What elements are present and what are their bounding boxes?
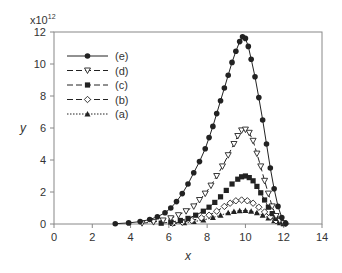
marker-circle (147, 217, 153, 223)
marker-circle (168, 205, 174, 211)
marker-square (229, 181, 234, 186)
marker-circle (260, 117, 266, 123)
marker-diamond (238, 197, 244, 203)
legend-label: (c) (115, 79, 128, 91)
marker-circle (126, 220, 132, 226)
marker-circle (237, 39, 243, 45)
x-tick-label: 2 (89, 231, 95, 243)
marker-triangle-up (225, 210, 231, 216)
marker-circle (206, 135, 212, 141)
marker-circle (197, 159, 203, 165)
legend-label: (e) (115, 50, 128, 62)
marker-triangle-down (262, 178, 268, 184)
marker-circle (233, 48, 239, 54)
legend-item: (e) (67, 50, 128, 62)
legend-item: (b) (67, 94, 128, 106)
x-tick-label: 6 (166, 231, 172, 243)
x-tick-label: 14 (316, 231, 328, 243)
y-multiplier-label: x1012 (30, 13, 56, 26)
marker-square (218, 194, 223, 199)
marker-triangle-down (196, 198, 202, 204)
marker-triangle-down (202, 191, 208, 197)
x-tick-label: 4 (128, 231, 134, 243)
legend-label: (d) (115, 65, 128, 77)
marker-triangle-down (254, 151, 260, 157)
marker-triangle-down (191, 204, 197, 210)
marker-triangle-down (265, 191, 271, 197)
marker-circle (202, 146, 208, 152)
marker-diamond (206, 212, 212, 218)
marker-circle (185, 181, 191, 187)
marker-diamond (221, 203, 227, 209)
x-axis-label: x (184, 249, 192, 263)
y-tick-label: 2 (40, 186, 46, 198)
marker-triangle-down (208, 183, 214, 189)
marker-triangle-down (214, 174, 220, 180)
marker-diamond (214, 208, 220, 214)
marker-circle (214, 111, 220, 117)
plot-border (54, 32, 322, 224)
marker-circle (279, 215, 285, 221)
marker-circle (174, 199, 180, 205)
x-tick-label: 12 (278, 231, 290, 243)
x-tick-label: 0 (51, 231, 57, 243)
marker-square (258, 190, 263, 195)
marker-circle (191, 170, 197, 176)
marker-circle (225, 72, 231, 78)
marker-circle (271, 186, 277, 192)
marker-circle (264, 141, 270, 147)
x-tick-label: 8 (204, 231, 210, 243)
marker-square (185, 216, 190, 221)
series-line (142, 130, 284, 224)
marker-circle (252, 74, 258, 80)
marker-triangle-down (246, 130, 252, 136)
marker-circle (179, 191, 185, 197)
marker-triangle-up (248, 208, 254, 214)
marker-circle (268, 165, 274, 171)
data-series (112, 34, 288, 227)
marker-triangle-up (231, 209, 237, 215)
marker-circle (218, 98, 224, 104)
marker-diamond (84, 96, 90, 102)
legend-item: (c) (67, 79, 128, 91)
marker-square (201, 209, 206, 214)
marker-square (250, 178, 255, 183)
marker-square (193, 213, 198, 218)
marker-circle (283, 220, 289, 226)
legend: (e)(d)(c)(b)(a) (67, 50, 128, 120)
y-tick-label: 4 (40, 154, 46, 166)
marker-square (224, 188, 229, 193)
marker-triangle-down (235, 134, 241, 140)
marker-circle (210, 124, 216, 130)
marker-circle (229, 60, 235, 66)
marker-circle (85, 53, 91, 59)
marker-triangle-up (237, 208, 243, 214)
marker-triangle-down (258, 164, 264, 170)
legend-label: (b) (115, 94, 128, 106)
marker-triangle-down (225, 153, 231, 159)
marker-square (85, 82, 90, 87)
marker-triangle-down (250, 138, 256, 144)
marker-triangle-down (183, 209, 189, 215)
series-line (115, 37, 285, 224)
axis-ticks: 02468101214024681012 (34, 26, 328, 243)
marker-circle (256, 95, 262, 101)
marker-circle (275, 204, 281, 210)
marker-circle (162, 210, 168, 216)
y-tick-label: 6 (40, 122, 46, 134)
legend-label: (a) (115, 108, 128, 120)
marker-triangle-down (175, 213, 181, 219)
marker-circle (222, 85, 228, 91)
y-tick-label: 12 (34, 26, 46, 38)
marker-square (262, 197, 267, 202)
x-tick-label: 10 (239, 231, 251, 243)
chart: 02468101214024681012 (e)(d)(c)(b)(a) x10… (0, 0, 342, 273)
marker-circle (137, 219, 143, 225)
marker-triangle-down (231, 142, 237, 148)
legend-item: (a) (67, 108, 128, 120)
marker-circle (112, 221, 118, 227)
marker-circle (246, 44, 252, 50)
marker-circle (243, 36, 249, 42)
marker-triangle-down (219, 164, 225, 170)
plot-frame (54, 32, 322, 224)
